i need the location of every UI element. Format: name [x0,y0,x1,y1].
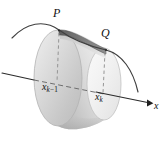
point-q-marker [105,49,107,51]
left-face-ellipse [34,30,82,126]
point-p-marker [58,29,60,31]
x-axis-left-segment [2,73,34,80]
label-x-k-sub: k [99,96,102,104]
label-point-q: Q [101,27,110,39]
frustum-right-face [87,48,121,120]
figure-canvas [0,0,167,148]
x-axis-arrowhead [147,100,153,107]
label-point-p: P [53,7,60,19]
surface-of-revolution-figure: P Q xk−1 xk x [0,0,167,148]
label-x-k-minus-1: xk−1 [42,82,58,94]
label-x-k: xk [95,92,103,104]
frustum-left-face [34,30,82,126]
label-x-k-minus-1-sub-one: 1 [54,86,58,94]
right-face-ellipse [87,48,121,120]
label-x-axis: x [154,101,158,111]
